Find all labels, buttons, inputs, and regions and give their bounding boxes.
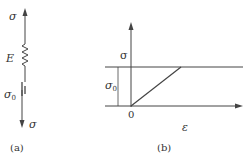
x-axis-arrow-icon — [235, 104, 243, 109]
elastic-ramp — [131, 67, 181, 106]
yield-stress-label: σ0 — [105, 79, 117, 93]
panel-b — [105, 22, 243, 109]
spring-icon — [22, 44, 28, 66]
panel-a — [20, 8, 29, 128]
y-axis-arrow-icon — [129, 22, 134, 30]
arrow-down-icon — [20, 120, 25, 128]
origin-label: 0 — [128, 109, 134, 120]
y-axis-label: σ — [120, 49, 128, 62]
x-axis-label: ε — [182, 121, 188, 134]
spring-label: E — [5, 52, 14, 65]
friction-label: σ0 — [4, 88, 16, 102]
caption-a: (a) — [10, 142, 24, 153]
caption-b: (b) — [157, 142, 171, 153]
arrow-up-icon — [23, 8, 28, 16]
top-stress-label: σ — [9, 10, 17, 23]
figure-canvas: σ E σ0 σ (a) σ σ0 0 ε (b) — [0, 0, 246, 165]
bottom-stress-label: σ — [29, 118, 37, 131]
